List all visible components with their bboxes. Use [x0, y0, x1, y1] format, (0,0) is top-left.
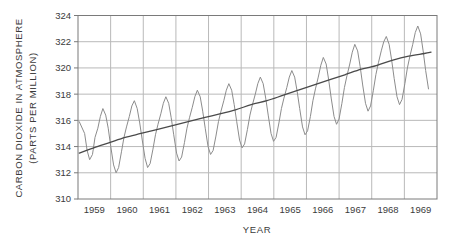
- x-axis-tick-label: 1964: [247, 204, 268, 215]
- y-axis-tick-label: 312: [55, 167, 71, 178]
- x-axis-tick-label: 1966: [312, 204, 333, 215]
- x-axis-tick-label: 1963: [214, 204, 235, 215]
- co2-chart-figure: 310312314316318320322324 195919601961196…: [0, 0, 460, 241]
- x-axis-tick-label: 1967: [345, 204, 366, 215]
- y-axis-tick-label: 322: [55, 36, 71, 47]
- y-axis-title-line1: CARBON DIOXIDE IN ATMOSPHERE: [13, 18, 24, 197]
- y-axis-tick-label: 318: [55, 89, 71, 100]
- y-axis-tick-label: 320: [55, 62, 71, 73]
- x-axis-tick-label: 1961: [149, 204, 170, 215]
- y-axis-tick-label: 314: [55, 141, 71, 152]
- keeling-curve-chart: 310312314316318320322324 195919601961196…: [0, 0, 460, 241]
- y-axis-title-line2: (PARTS PER MILLION): [27, 52, 38, 163]
- x-axis-tick-label: 1962: [182, 204, 203, 215]
- x-axis-tick-label: 1969: [410, 204, 431, 215]
- x-axis-title: YEAR: [243, 224, 271, 235]
- x-axis-tick-label: 1960: [116, 204, 137, 215]
- x-axis-tick-label: 1965: [280, 204, 301, 215]
- x-axis-tick-label: 1959: [84, 204, 105, 215]
- y-axis-tick-label: 324: [55, 10, 71, 21]
- y-axis-tick-label: 316: [55, 115, 71, 126]
- x-axis-tick-labels: 1959196019611962196319641965196619671968…: [84, 204, 432, 215]
- y-axis-tick-label: 310: [55, 193, 71, 204]
- x-axis-tick-label: 1968: [377, 204, 398, 215]
